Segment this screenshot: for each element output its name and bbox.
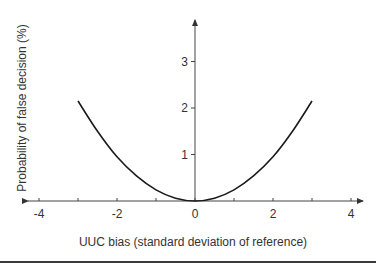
x-tick-label: 0 — [192, 207, 199, 221]
y-axis: 123 — [181, 20, 195, 201]
y-axis-title: Probability of false decision (%) — [15, 24, 29, 191]
chart: -4-2024 123 UUC bias (standard deviation… — [0, 0, 376, 265]
bottom-rule — [0, 261, 376, 263]
x-tick-label: 2 — [270, 207, 277, 221]
x-tick-label: -2 — [112, 207, 123, 221]
y-tick-label: 3 — [181, 55, 188, 69]
x-tick-label: -4 — [34, 207, 45, 221]
x-axis-title: UUC bias (standard deviation of referenc… — [79, 235, 307, 249]
y-tick-label: 1 — [181, 148, 188, 162]
y-tick-label: 2 — [181, 101, 188, 115]
x-tick-label: 4 — [348, 207, 355, 221]
